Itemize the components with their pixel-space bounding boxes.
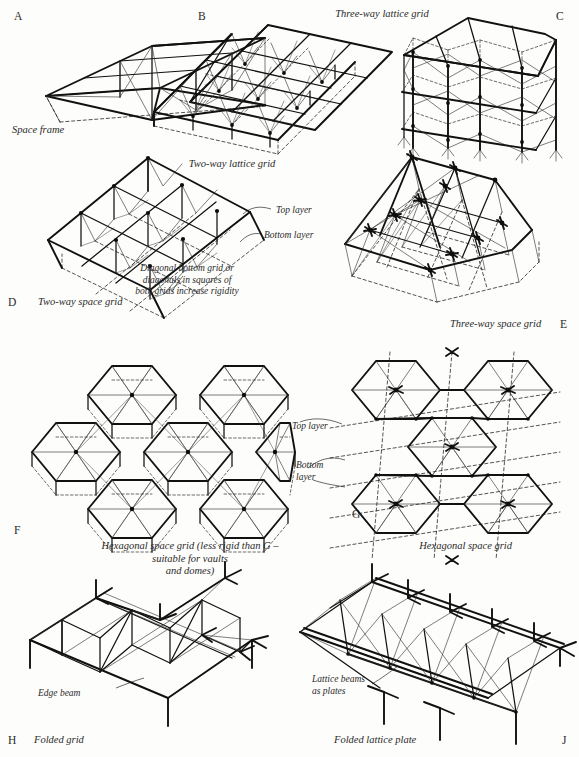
panel-letter-c: C — [556, 10, 564, 22]
annotation-top-layer-d: Top layer — [276, 205, 312, 217]
panel-b-drawing — [154, 25, 392, 154]
annotation-lattice-beams-as-plates: Lattice beams as plates — [312, 674, 365, 697]
panel-j-drawing — [296, 564, 576, 750]
caption-hexagonal-space-grid-f: Hexagonal space grid (less rigid than G … — [60, 540, 320, 578]
annotation-bottom-layer-d: Bottom layer — [264, 230, 313, 242]
panel-g-drawing — [300, 348, 560, 564]
annotation-bottom-layer-g: Bottom layer — [296, 460, 323, 483]
caption-hexagonal-space-grid-g: Hexagonal space grid — [392, 540, 512, 553]
caption-folded-grid: Folded grid — [34, 734, 84, 747]
panel-letter-a: A — [14, 10, 23, 22]
panel-letter-g: G — [352, 508, 361, 520]
panel-letter-j: J — [562, 734, 567, 746]
panel-h-drawing — [30, 562, 268, 726]
annotation-top-layer-g: Top layer — [292, 421, 328, 433]
panel-f-drawing — [32, 366, 296, 552]
caption-two-way-lattice-grid: Two-way lattice grid — [172, 158, 292, 171]
panel-letter-e: E — [560, 318, 567, 330]
annotation-diagonal-bottom-grid: Diagonal bottom grid or diagonals in squ… — [90, 263, 284, 298]
panel-letter-b: B — [198, 10, 206, 22]
panel-letter-d: D — [8, 296, 17, 308]
figure-sheet: A B C D E F G H J Space frame Two-way la… — [0, 0, 579, 757]
panel-letter-h: H — [8, 734, 17, 746]
caption-two-way-space-grid: Two-way space grid — [38, 296, 122, 309]
annotation-edge-beam: Edge beam — [38, 688, 80, 700]
panel-c-drawing — [398, 18, 562, 163]
caption-folded-lattice-plate: Folded lattice plate — [334, 734, 416, 747]
panel-letter-f: F — [14, 524, 21, 536]
panel-e-drawing — [345, 151, 539, 302]
figure-linework — [0, 0, 579, 757]
caption-space-frame: Space frame — [12, 124, 64, 137]
caption-three-way-space-grid: Three-way space grid — [450, 318, 541, 331]
caption-three-way-lattice-grid: Three-way lattice grid — [322, 8, 442, 21]
